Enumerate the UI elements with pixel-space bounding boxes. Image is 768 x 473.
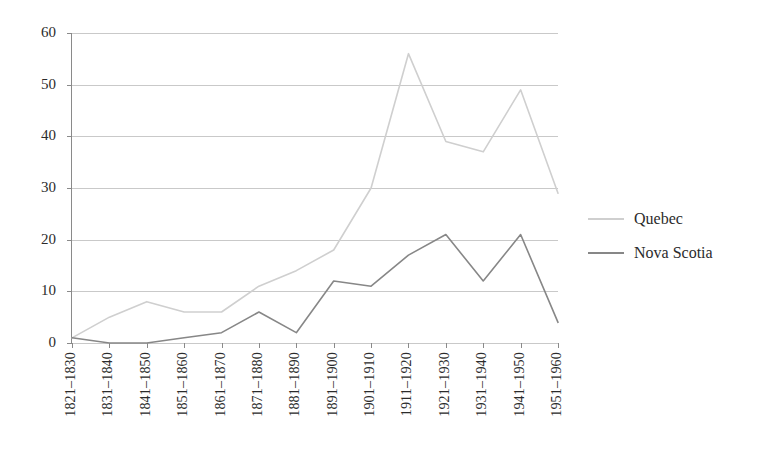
chart-legend: QuebecNova Scotia (588, 202, 763, 270)
x-axis-tick-label: 1951–1960 (550, 352, 564, 417)
x-axis-tick-mark (334, 343, 335, 348)
x-axis-tick-mark (72, 343, 73, 348)
x-axis-tick-label: 1901–1910 (363, 352, 377, 417)
series-line-nova-scotia (72, 235, 558, 344)
x-axis-tick-mark (184, 343, 185, 348)
x-axis-tick-mark (259, 343, 260, 348)
x-axis-tick-label: 1831–1840 (101, 352, 115, 417)
x-axis-tick-mark (521, 343, 522, 348)
legend-swatch-icon (588, 218, 624, 220)
legend-swatch-icon (588, 252, 624, 254)
x-axis-tick-mark (222, 343, 223, 348)
x-axis-tick-label: 1921–1930 (438, 352, 452, 417)
legend-label: Nova Scotia (634, 245, 713, 261)
x-axis-tick-mark (558, 343, 559, 348)
legend-item-nova-scotia[interactable]: Nova Scotia (588, 236, 763, 270)
legend-label: Quebec (634, 211, 683, 227)
x-axis-tick-label: 1861–1870 (214, 352, 228, 417)
x-axis-tick-label: 1941–1950 (513, 352, 527, 417)
x-axis-tick-mark (446, 343, 447, 348)
x-axis-tick-label: 1841–1850 (139, 352, 153, 417)
x-axis-tick-label: 1881–1890 (288, 352, 302, 417)
line-chart: 0102030405060 1821–18301831–18401841–185… (0, 0, 768, 473)
x-axis-tick-mark (109, 343, 110, 348)
x-axis-tick-mark (371, 343, 372, 348)
x-axis-tick-mark (483, 343, 484, 348)
series-line-quebec (72, 54, 558, 338)
x-axis-tick-label: 1891–1900 (326, 352, 340, 417)
x-axis-tick-mark (147, 343, 148, 348)
x-axis-tick-label: 1931–1940 (475, 352, 489, 417)
x-axis-tick-label: 1851–1860 (176, 352, 190, 417)
legend-item-quebec[interactable]: Quebec (588, 202, 763, 236)
x-axis-tick-label: 1871–1880 (251, 352, 265, 417)
x-axis-tick-label: 1821–1830 (64, 352, 78, 417)
x-axis-tick-mark (296, 343, 297, 348)
x-axis-tick-label: 1911–1920 (400, 352, 414, 416)
x-axis-tick-mark (408, 343, 409, 348)
